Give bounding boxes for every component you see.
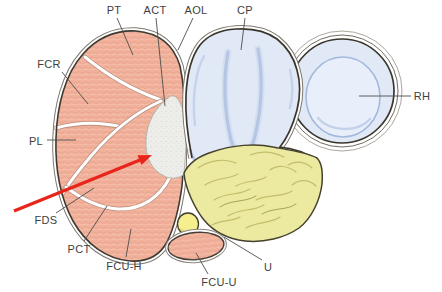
radial-head-core bbox=[306, 57, 380, 137]
label-pl: PL bbox=[29, 135, 43, 147]
label-act: ACT bbox=[144, 4, 167, 16]
label-cp: CP bbox=[237, 4, 253, 16]
label-rh: RH bbox=[414, 90, 431, 102]
label-fds: FDS bbox=[35, 214, 58, 226]
label-pt: PT bbox=[107, 4, 122, 16]
ulna-bone bbox=[184, 145, 322, 241]
diagram-stage: PT ACT AOL CP FCR PL RH FDS PCT FCU-H FC… bbox=[0, 0, 442, 292]
label-fcu-h: FCU-H bbox=[106, 260, 142, 272]
anatomy-diagram: PT ACT AOL CP FCR PL RH FDS PCT FCU-H FC… bbox=[0, 0, 442, 292]
label-u: U bbox=[264, 261, 272, 273]
label-aol: AOL bbox=[185, 4, 208, 16]
label-fcu-u: FCU-U bbox=[201, 276, 237, 288]
leader-aol bbox=[178, 18, 193, 50]
label-fcr: FCR bbox=[37, 58, 61, 70]
label-pct: PCT bbox=[68, 243, 91, 255]
ulna-fill bbox=[184, 145, 322, 241]
